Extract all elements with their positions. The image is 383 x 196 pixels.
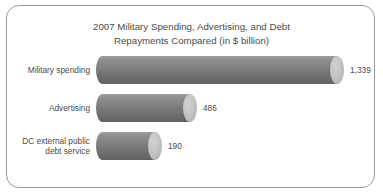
- category-label-line: Advertising: [49, 103, 90, 114]
- chart-title: 2007 Military Spending, Advertising, and…: [37, 20, 346, 47]
- cylinder-end-cap: [330, 56, 344, 84]
- bar-military-spending: [96, 56, 344, 84]
- category-label-line: Military spending: [28, 65, 90, 76]
- chart-frame: 2007 Military Spending, Advertising, and…: [6, 5, 375, 188]
- cylinder-body: [102, 56, 337, 84]
- bar-row: Advertising 486: [7, 94, 376, 122]
- cylinder-shape: [96, 56, 344, 84]
- value-label-dc-external-public-debt-service: 190: [168, 132, 182, 160]
- category-label-line: DC external public: [22, 136, 90, 147]
- bar-dc-external-public-debt-service: [96, 132, 162, 160]
- chart-title-line-1: 2007 Military Spending, Advertising, and…: [37, 20, 346, 34]
- category-label-military-spending: Military spending: [7, 56, 90, 84]
- cylinder-end-cap: [148, 132, 162, 160]
- category-label-line: debt service: [45, 146, 90, 157]
- bar-advertising: [96, 94, 197, 122]
- category-label-dc-external-public-debt-service: DC external public debt service: [7, 132, 90, 160]
- cylinder-shape: [96, 132, 162, 160]
- value-label-advertising: 486: [203, 94, 217, 122]
- category-label-advertising: Advertising: [7, 94, 90, 122]
- cylinder-end-cap: [183, 94, 197, 122]
- chart-title-line-2: Repayments Compared (in $ billion): [37, 34, 346, 48]
- bar-row: Military spending 1,339: [7, 56, 376, 84]
- bar-row: DC external public debt service 190: [7, 132, 376, 160]
- cylinder-body: [102, 94, 190, 122]
- value-label-military-spending: 1,339: [350, 56, 371, 84]
- plot-area: Military spending 1,339 Advertising: [7, 56, 376, 181]
- cylinder-shape: [96, 94, 197, 122]
